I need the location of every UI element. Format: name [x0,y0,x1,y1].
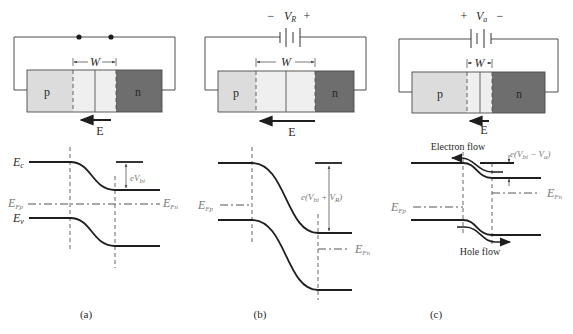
voltage-label: Va [476,9,487,24]
contact-dot-icon [108,34,113,39]
depletion-region [73,70,116,112]
efn-label: EFn [354,242,371,257]
field-label: E [96,124,103,138]
diode-block-c: p n W E [412,56,545,137]
conduction-band [29,162,160,190]
width-label: W [90,55,101,69]
field-label: E [480,123,487,137]
barrier-label: e(Vbi − Va) [510,149,551,161]
n-label: n [332,86,338,100]
band-diagram-a: eVbi Ec Ev EFp EFn [7,147,179,268]
minus-sign: − [497,9,504,23]
efp-label: EFp [197,198,214,213]
p-label: p [44,85,50,99]
panel-c: + Va − p n W E [390,9,563,321]
barrier-label: e(Vbi + VR) [301,192,342,204]
plus-sign: + [304,9,311,23]
panel-b: − VR + p n W E [197,9,371,321]
diode-block-a: p n W E [27,55,162,138]
hole-flow-label: Hole flow [460,246,501,257]
pn-junction-figure: p n W E eVbi Ec Ev EFp EFn (a) [0,0,573,334]
valence-band [29,218,160,246]
depletion-region [256,71,315,112]
electron-flow-label: Electron flow [431,141,486,152]
ec-label: Ec [12,155,24,170]
diode-block-b: p n W E [218,55,354,139]
p-label: p [437,87,443,101]
barrier-label: eVbi [130,173,145,185]
caption-c: (c) [430,308,443,321]
plus-sign: + [461,9,468,23]
panel-a: p n W E eVbi Ec Ev EFp EFn (a) [7,34,179,321]
voltage-label: VR [284,9,296,24]
band-diagram-c: Electron flow Hole flow e(Vbi − Va) EFp … [390,141,563,257]
efn-label: EFn [546,186,563,201]
n-label: n [516,87,522,101]
depletion-region [467,72,492,113]
efp-label: EFp [390,200,407,215]
n-label: n [135,85,141,99]
ev-label: Ev [12,211,24,226]
valence-band [411,220,541,235]
efp-label: EFp [7,196,24,211]
p-region [27,70,73,112]
band-diagram-b: e(Vbi + VR) EFp EFn [197,147,371,300]
width-label: W [281,55,292,69]
efn-label: EFn [162,196,179,211]
p-label: p [233,86,239,100]
valence-band [218,220,352,290]
field-label: E [288,125,295,139]
minus-sign: − [268,9,275,23]
caption-b: (b) [254,308,267,321]
contact-dot-icon [76,34,81,39]
caption-a: (a) [80,308,93,321]
width-label: W [475,56,486,70]
